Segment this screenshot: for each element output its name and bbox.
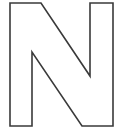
letter-n-outline-path (10, 3, 113, 126)
image-canvas (0, 0, 120, 134)
letter-n-glyph (0, 0, 120, 134)
